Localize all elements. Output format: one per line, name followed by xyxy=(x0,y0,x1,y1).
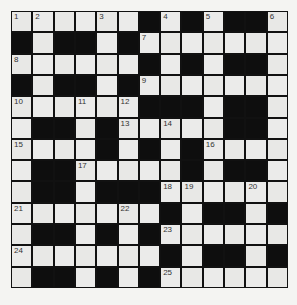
answer-cell[interactable] xyxy=(182,33,201,52)
answer-cell[interactable] xyxy=(76,119,95,138)
answer-cell[interactable]: 16 xyxy=(204,140,223,159)
answer-cell[interactable] xyxy=(97,204,116,223)
answer-cell[interactable]: 24 xyxy=(12,246,31,265)
answer-cell[interactable] xyxy=(97,76,116,95)
answer-cell[interactable] xyxy=(140,246,159,265)
answer-cell[interactable] xyxy=(76,12,95,31)
answer-cell[interactable] xyxy=(182,225,201,244)
answer-cell[interactable] xyxy=(268,55,287,74)
answer-cell[interactable] xyxy=(204,119,223,138)
answer-cell[interactable] xyxy=(76,204,95,223)
answer-cell[interactable] xyxy=(225,76,244,95)
answer-cell[interactable] xyxy=(161,55,180,74)
answer-cell[interactable] xyxy=(119,246,138,265)
answer-cell[interactable] xyxy=(246,76,265,95)
answer-cell[interactable] xyxy=(268,76,287,95)
answer-cell[interactable]: 7 xyxy=(140,33,159,52)
answer-cell[interactable] xyxy=(246,33,265,52)
answer-cell[interactable] xyxy=(225,225,244,244)
answer-cell[interactable] xyxy=(33,33,52,52)
answer-cell[interactable] xyxy=(140,161,159,180)
answer-cell[interactable]: 18 xyxy=(161,182,180,201)
answer-cell[interactable] xyxy=(225,140,244,159)
answer-cell[interactable]: 25 xyxy=(161,268,180,287)
answer-cell[interactable] xyxy=(12,161,31,180)
answer-cell[interactable]: 14 xyxy=(161,119,180,138)
answer-cell[interactable] xyxy=(33,204,52,223)
answer-cell[interactable] xyxy=(246,268,265,287)
answer-cell[interactable] xyxy=(119,161,138,180)
answer-cell[interactable]: 19 xyxy=(182,182,201,201)
answer-cell[interactable] xyxy=(119,268,138,287)
answer-cell[interactable] xyxy=(97,246,116,265)
answer-cell[interactable] xyxy=(225,182,244,201)
answer-cell[interactable] xyxy=(182,204,201,223)
answer-cell[interactable]: 20 xyxy=(246,182,265,201)
answer-cell[interactable] xyxy=(33,246,52,265)
answer-cell[interactable] xyxy=(268,140,287,159)
answer-cell[interactable] xyxy=(246,204,265,223)
answer-cell[interactable] xyxy=(246,225,265,244)
answer-cell[interactable] xyxy=(76,140,95,159)
answer-cell[interactable]: 4 xyxy=(161,12,180,31)
answer-cell[interactable] xyxy=(55,55,74,74)
answer-cell[interactable] xyxy=(140,119,159,138)
answer-cell[interactable] xyxy=(268,161,287,180)
answer-cell[interactable] xyxy=(204,268,223,287)
answer-cell[interactable] xyxy=(97,161,116,180)
answer-cell[interactable] xyxy=(161,33,180,52)
answer-cell[interactable] xyxy=(182,76,201,95)
answer-cell[interactable] xyxy=(76,268,95,287)
answer-cell[interactable] xyxy=(76,246,95,265)
answer-cell[interactable]: 23 xyxy=(161,225,180,244)
answer-cell[interactable] xyxy=(225,33,244,52)
answer-cell[interactable] xyxy=(97,55,116,74)
answer-cell[interactable] xyxy=(268,97,287,116)
answer-cell[interactable] xyxy=(204,161,223,180)
answer-cell[interactable]: 10 xyxy=(12,97,31,116)
answer-cell[interactable]: 5 xyxy=(204,12,223,31)
answer-cell[interactable] xyxy=(161,76,180,95)
answer-cell[interactable] xyxy=(204,76,223,95)
answer-cell[interactable] xyxy=(268,33,287,52)
answer-cell[interactable]: 1 xyxy=(12,12,31,31)
answer-cell[interactable]: 13 xyxy=(119,119,138,138)
answer-cell[interactable] xyxy=(33,97,52,116)
answer-cell[interactable] xyxy=(55,246,74,265)
answer-cell[interactable] xyxy=(204,33,223,52)
answer-cell[interactable]: 8 xyxy=(12,55,31,74)
answer-cell[interactable] xyxy=(55,140,74,159)
answer-cell[interactable] xyxy=(268,268,287,287)
answer-cell[interactable] xyxy=(55,97,74,116)
answer-cell[interactable] xyxy=(204,225,223,244)
answer-cell[interactable] xyxy=(97,33,116,52)
answer-cell[interactable] xyxy=(140,204,159,223)
answer-cell[interactable]: 3 xyxy=(97,12,116,31)
answer-cell[interactable] xyxy=(55,204,74,223)
answer-cell[interactable] xyxy=(55,12,74,31)
answer-cell[interactable] xyxy=(33,140,52,159)
answer-cell[interactable] xyxy=(204,97,223,116)
answer-cell[interactable]: 2 xyxy=(33,12,52,31)
answer-cell[interactable] xyxy=(182,268,201,287)
answer-cell[interactable] xyxy=(119,225,138,244)
answer-cell[interactable] xyxy=(204,55,223,74)
answer-cell[interactable] xyxy=(182,119,201,138)
answer-cell[interactable] xyxy=(12,268,31,287)
answer-cell[interactable] xyxy=(119,140,138,159)
answer-cell[interactable] xyxy=(161,140,180,159)
answer-cell[interactable]: 12 xyxy=(119,97,138,116)
answer-cell[interactable] xyxy=(76,55,95,74)
answer-cell[interactable] xyxy=(204,182,223,201)
answer-cell[interactable] xyxy=(246,246,265,265)
answer-cell[interactable]: 11 xyxy=(76,97,95,116)
answer-cell[interactable] xyxy=(12,225,31,244)
answer-cell[interactable] xyxy=(268,119,287,138)
answer-cell[interactable] xyxy=(161,161,180,180)
answer-cell[interactable]: 9 xyxy=(140,76,159,95)
answer-cell[interactable] xyxy=(182,246,201,265)
answer-cell[interactable] xyxy=(119,12,138,31)
answer-cell[interactable]: 15 xyxy=(12,140,31,159)
answer-cell[interactable]: 6 xyxy=(268,12,287,31)
answer-cell[interactable] xyxy=(33,76,52,95)
